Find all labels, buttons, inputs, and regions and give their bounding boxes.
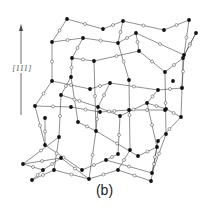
black-atom [171, 79, 175, 83]
white-atom [41, 160, 44, 163]
white-atom [108, 110, 111, 113]
white-atom [44, 130, 47, 133]
white-atom [128, 165, 131, 168]
white-atom [70, 84, 73, 87]
white-atom [182, 70, 185, 73]
white-atom [99, 85, 102, 88]
white-atom [119, 31, 122, 34]
white-atom [151, 124, 154, 127]
black-atom [164, 132, 168, 136]
white-atom [73, 98, 76, 101]
white-atom [158, 152, 161, 155]
black-atom [163, 70, 167, 74]
white-atom [32, 166, 35, 169]
white-atom [51, 163, 54, 166]
lattice-white-atoms [32, 23, 192, 178]
axis-label-111: [111] [9, 64, 35, 73]
black-atom [70, 56, 74, 60]
white-atom [51, 60, 54, 63]
white-atom [116, 142, 119, 145]
white-atom [133, 174, 136, 177]
white-atom [118, 134, 121, 137]
white-atom [93, 164, 96, 167]
black-atom [50, 79, 54, 83]
white-atom [128, 114, 131, 117]
black-atom [116, 168, 120, 172]
black-atom [127, 108, 131, 112]
white-atom [70, 66, 73, 69]
white-atom [151, 60, 154, 63]
white-atom [126, 37, 129, 40]
white-atom [185, 36, 188, 39]
white-atom [78, 100, 81, 103]
black-atom [116, 152, 120, 156]
white-atom [151, 95, 154, 98]
white-atom [122, 60, 125, 63]
black-atom [92, 59, 96, 63]
black-atom [81, 36, 85, 40]
black-atom [155, 145, 159, 149]
white-atom [58, 29, 61, 32]
black-atom [179, 115, 183, 119]
black-atom [128, 148, 132, 152]
white-atom [188, 44, 191, 47]
white-atom [146, 150, 149, 153]
white-atom [133, 85, 136, 88]
black-atom [50, 40, 54, 44]
black-atom [145, 101, 149, 105]
white-atom [153, 163, 156, 166]
black-atom [87, 177, 91, 181]
white-atom [74, 167, 77, 170]
white-atom [115, 55, 118, 58]
black-atom [118, 114, 122, 118]
white-atom [84, 108, 87, 111]
arrow-head-icon [19, 24, 23, 31]
black-atom [121, 19, 125, 23]
white-atom [55, 152, 58, 155]
white-atom [66, 39, 69, 42]
black-atom [21, 162, 25, 166]
black-atom [52, 168, 56, 172]
white-atom [94, 95, 97, 98]
black-atom [96, 105, 100, 109]
black-atom [194, 31, 198, 35]
lattice-bonds [23, 19, 196, 181]
white-atom [70, 173, 73, 176]
white-atom [113, 110, 116, 113]
white-atom [42, 174, 45, 177]
white-atom [86, 125, 89, 128]
white-atom [111, 156, 114, 159]
white-atom [172, 112, 175, 115]
white-atom [164, 102, 167, 105]
black-atom [57, 135, 61, 139]
black-atom [180, 86, 184, 90]
black-atom [59, 156, 63, 160]
white-atom [175, 24, 178, 27]
white-atom [52, 105, 55, 108]
white-atom [39, 124, 42, 127]
black-atom [33, 104, 37, 108]
white-atom [123, 159, 126, 162]
black-atom [104, 158, 108, 162]
black-atom [134, 31, 138, 35]
black-atom [69, 75, 73, 79]
black-atom [108, 81, 112, 85]
white-atom [168, 128, 171, 131]
white-atom [103, 94, 106, 97]
figure-caption: (b) [0, 182, 209, 198]
black-atom [98, 110, 102, 114]
black-atom [136, 154, 140, 158]
white-atom [42, 92, 45, 95]
white-atom [169, 88, 172, 91]
white-atom [173, 64, 176, 67]
white-atom [142, 24, 145, 27]
white-atom [146, 109, 149, 112]
black-atom [156, 88, 160, 92]
white-atom [102, 173, 105, 176]
black-atom [150, 171, 154, 175]
black-atom [187, 18, 191, 22]
white-atom [96, 118, 99, 121]
white-atom [82, 58, 85, 61]
white-atom [99, 39, 102, 42]
black-atom [163, 108, 167, 112]
